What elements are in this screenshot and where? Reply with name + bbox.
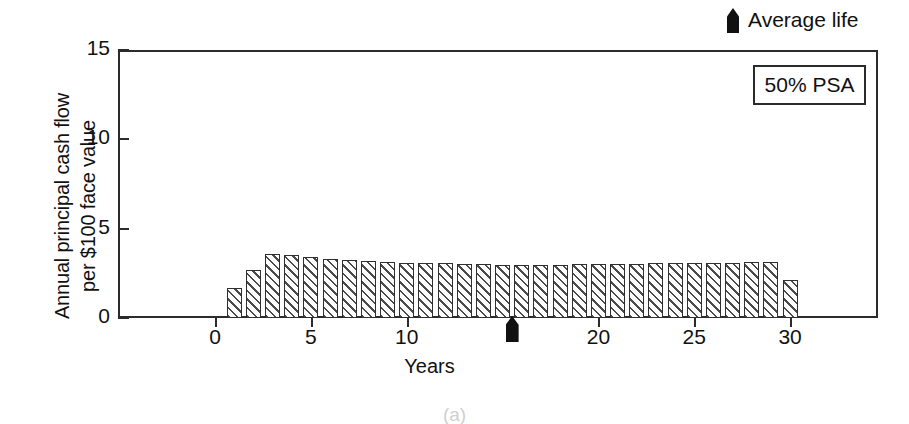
- bar: [495, 265, 510, 318]
- bar: [668, 263, 683, 318]
- bar: [361, 261, 376, 318]
- bar: [610, 264, 625, 318]
- y-tick-label: 10: [50, 125, 110, 149]
- x-axis-title: Years: [0, 355, 909, 378]
- bar: [763, 262, 778, 318]
- bar: [725, 263, 740, 318]
- bar: [227, 288, 242, 318]
- y-tick: [118, 228, 129, 230]
- x-tick-label: 0: [185, 325, 245, 349]
- x-tick-label: 20: [568, 325, 628, 349]
- bar: [687, 263, 702, 318]
- bar: [553, 265, 568, 318]
- y-tick: [118, 317, 129, 319]
- y-tick: [118, 138, 129, 140]
- x-axis-title-text: Years: [404, 355, 454, 378]
- bar: [648, 263, 663, 318]
- y-tick-label: 5: [50, 215, 110, 239]
- bar: [591, 264, 606, 318]
- x-tick-label: 30: [760, 325, 820, 349]
- y-tick: [118, 49, 129, 51]
- bar: [438, 263, 453, 318]
- bar: [323, 259, 338, 318]
- bar: [783, 280, 798, 318]
- y-tick-label: 0: [50, 304, 110, 328]
- bar: [572, 264, 587, 318]
- bar: [303, 257, 318, 318]
- bar: [744, 262, 759, 318]
- bar: [418, 263, 433, 318]
- x-tick-label: 25: [664, 325, 724, 349]
- bar: [284, 255, 299, 318]
- bar: [399, 263, 414, 318]
- bar: [342, 260, 357, 318]
- average-life-marker-icon: [506, 316, 519, 342]
- bar: [706, 263, 721, 318]
- bar: [533, 265, 548, 318]
- average-life-legend-label: Average life: [748, 8, 859, 32]
- bar: [457, 264, 472, 318]
- bar: [246, 270, 261, 318]
- psa-annotation-box: 50% PSA: [753, 65, 866, 105]
- figure-panel: Annual principal cash flow per $100 face…: [0, 0, 909, 424]
- x-tick-label: 10: [377, 325, 437, 349]
- bar: [380, 262, 395, 318]
- bar: [265, 254, 280, 318]
- psa-annotation-label: 50% PSA: [765, 73, 855, 97]
- x-tick-label: 5: [281, 325, 341, 349]
- average-life-legend-marker-icon: [727, 8, 739, 33]
- figure-caption: (a): [0, 404, 909, 424]
- bar: [514, 265, 529, 318]
- y-tick-label: 15: [50, 36, 110, 60]
- bar: [476, 264, 491, 318]
- bar: [629, 264, 644, 318]
